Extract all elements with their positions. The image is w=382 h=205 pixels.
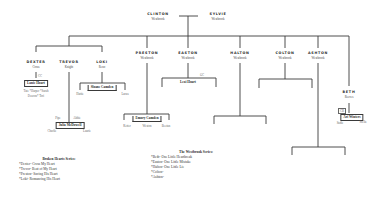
person-name: TREVOR xyxy=(59,60,79,64)
child-name: Lucas xyxy=(121,92,128,96)
person-name: CLINTON xyxy=(147,12,169,16)
person-surname: Westbrook xyxy=(210,17,227,21)
child-name: Charlie xyxy=(48,129,57,133)
person-name: BETH xyxy=(343,90,356,94)
person-surname: Westbrook xyxy=(275,56,294,60)
legend-westbrook-series: The Westbrook Series: *Beth- One Little … xyxy=(151,150,241,180)
child-name: Sadie xyxy=(337,121,344,125)
person-loki: LOKI Reno xyxy=(96,60,108,69)
spouse-julia-mcdowell: Julia McDowell xyxy=(56,122,85,129)
person-preston: PRESTON Westbrook xyxy=(136,51,159,60)
children-list: Tate *Harper *Sarah xyxy=(24,89,49,93)
child-name: Laurie xyxy=(83,129,91,133)
child-name: Stella xyxy=(360,120,367,124)
person-surname: Westbrook xyxy=(136,56,159,60)
person-beth: BETH Reeves xyxy=(343,90,356,99)
child-name: Hattie xyxy=(76,92,83,96)
person-ashton: ASHTON Westbrook xyxy=(308,51,328,60)
person-easton: EASTON Westbrook xyxy=(178,51,198,60)
person-sylvie: SYLVIE Westbrook xyxy=(210,12,227,21)
person-name: PRESTON xyxy=(136,51,159,55)
person-name: SYLVIE xyxy=(210,12,227,16)
person-halton: HALTON Westbrook xyxy=(230,51,249,60)
person-dexter: DEXTER Cross xyxy=(26,60,45,69)
spouse-lexi-hoart: Lexi Hoart xyxy=(178,80,198,85)
person-name: DEXTER xyxy=(26,60,45,64)
legend-item: *Ashton- xyxy=(151,175,241,180)
person-surname: Cross xyxy=(26,65,45,69)
spouse-lanie-hoart: Lanie Hoart xyxy=(24,80,48,87)
child-name: Ketter xyxy=(123,124,131,128)
legend-broken-hearts-series: Broken Hearts Series: *Dexter- Cross My … xyxy=(19,157,99,182)
person-surname: Reno xyxy=(96,65,108,69)
person-surname: Westbrook xyxy=(147,17,169,21)
person-name: ASHTON xyxy=(308,51,328,55)
person-surname: Knight xyxy=(59,65,79,69)
relationship-tag: Abbie xyxy=(73,116,80,120)
person-surname: Westbrook xyxy=(308,56,328,60)
spouse-sloane-camden: Sloane Camden xyxy=(88,85,117,91)
relationship-tag: CC xyxy=(38,74,42,78)
child-name: Weston xyxy=(143,124,152,128)
person-clinton: CLINTON Westbrook xyxy=(147,12,169,21)
relationship-tag: GC xyxy=(200,73,204,77)
person-surname: Reeves xyxy=(343,95,356,99)
legend-item: *Loki- Romancing His Heart xyxy=(19,177,99,182)
person-name: COLTON xyxy=(275,51,294,55)
spouse-emory-camden: Emory Camden xyxy=(132,116,161,122)
child-name: Beetan xyxy=(162,124,170,128)
relationship-tag: Pipe xyxy=(55,116,60,120)
person-surname: Westbrook xyxy=(230,56,249,60)
person-surname: Westbrook xyxy=(178,56,198,60)
person-name: EASTON xyxy=(178,51,198,55)
children-list: Deacon* Tori xyxy=(28,94,44,98)
person-name: LOKI xyxy=(96,60,108,64)
person-colton: COLTON Westbrook xyxy=(275,51,294,60)
person-trevor: TREVOR Knight xyxy=(59,60,79,69)
person-name: HALTON xyxy=(230,51,249,55)
